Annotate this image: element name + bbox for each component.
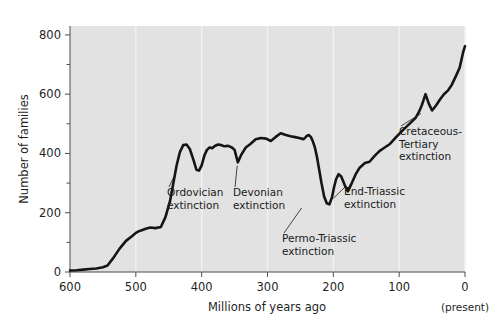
diversity-chart-figure: 0200400600800 6005004003002001000 Ordovi… (0, 0, 498, 328)
y-tick-label-800: 800 (39, 28, 61, 42)
annotation-ordovician: Ordovicianextinction (167, 186, 223, 211)
annotation-devonian-line-0: Devonian (233, 186, 283, 198)
annotation-ordovician-line-0: Ordovician (167, 186, 223, 198)
y-tick-label-200: 200 (39, 206, 61, 220)
annotation-devonian: Devonianextinction (233, 186, 285, 211)
x-tick-label-200: 200 (322, 280, 344, 294)
annotation-end-triassic: End-Triassicextinction (344, 185, 405, 210)
x-tick-label-500: 500 (125, 280, 147, 294)
annotation-end-triassic-line-0: End-Triassic (344, 185, 405, 197)
x-tick-label-100: 100 (388, 280, 410, 294)
present-note-label: (present) (441, 301, 489, 313)
annotation-permo-triassic-line-1: extinction (282, 245, 334, 257)
annotation-cretaceous-tertiary-line-1: Tertiary (398, 138, 438, 150)
x-tick-label-400: 400 (191, 280, 213, 294)
y-axis-title: Number of families (17, 94, 31, 204)
x-tick-label-0: 0 (461, 280, 468, 294)
y-tick-label-0: 0 (54, 265, 61, 279)
annotation-devonian-line-1: extinction (233, 199, 285, 211)
x-tick-label-300: 300 (257, 280, 279, 294)
y-tick-label-400: 400 (39, 146, 61, 160)
annotation-end-triassic-line-1: extinction (344, 198, 396, 210)
x-tick-label-600: 600 (59, 280, 81, 294)
annotation-ordovician-line-1: extinction (167, 199, 219, 211)
y-tick-label-600: 600 (39, 87, 61, 101)
annotation-cretaceous-tertiary-line-0: Cretaceous- (399, 125, 462, 137)
chart-svg: 0200400600800 6005004003002001000 Ordovi… (0, 0, 498, 328)
annotation-cretaceous-tertiary-line-2: extinction (399, 150, 451, 162)
annotation-permo-triassic-line-0: Permo-Triassic (282, 232, 357, 244)
x-axis-title: Millions of years ago (208, 300, 326, 314)
